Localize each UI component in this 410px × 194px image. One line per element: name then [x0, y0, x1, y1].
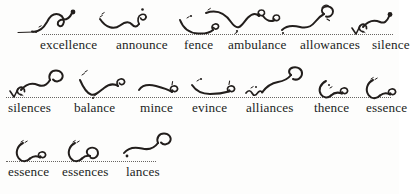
shorthand-outline-thence [312, 63, 360, 101]
word-label: mince [140, 99, 173, 117]
shorthand-outline-essences [62, 127, 114, 165]
word-label: allowances [300, 36, 360, 54]
word-label: evince [192, 99, 227, 117]
word-label: announce [116, 36, 168, 54]
shorthand-outline-essence [360, 63, 400, 101]
shorthand-outline-group [0, 0, 399, 38]
word-label: fence [184, 36, 213, 54]
word-label: lances [126, 163, 160, 181]
word-label: silences [8, 99, 51, 117]
word-label: ambulance [228, 36, 286, 54]
word-label-group: silences balance mince evince alliances … [0, 99, 399, 119]
shorthand-outline-lances [120, 127, 184, 165]
word-label: essence [366, 99, 407, 117]
word-label: excellence [40, 36, 97, 54]
word-label: balance [74, 99, 115, 117]
word-label: silence [372, 36, 410, 54]
word-label: alliances [246, 99, 293, 117]
shorthand-outline-group [0, 127, 399, 165]
shorthand-outline-silence [350, 0, 398, 38]
word-label: essences [62, 163, 109, 181]
shorthand-outline-allowances [278, 0, 340, 38]
shorthand-outline-evince [188, 63, 244, 101]
shorthand-outline-ambulance [202, 0, 282, 38]
word-label-group: essence essences lances [0, 163, 399, 183]
word-label: thence [314, 99, 349, 117]
shorthand-outline-balance [74, 63, 136, 101]
shorthand-outline-essence [10, 127, 54, 165]
word-label-group: excellence announce fence ambulance allo… [0, 36, 399, 56]
shorthand-outline-excellence [16, 0, 80, 38]
shorthand-outline-mince [136, 63, 188, 101]
shorthand-outline-alliances [242, 63, 308, 101]
shorthand-outline-silences [8, 63, 70, 101]
word-label: essence [8, 163, 49, 181]
shorthand-outline-announce [96, 0, 154, 38]
shorthand-outline-group [0, 63, 399, 101]
